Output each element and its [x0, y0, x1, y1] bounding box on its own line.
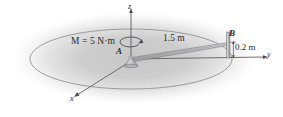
moment-label: M = 5 N·m	[71, 37, 115, 47]
point-b-label: B	[229, 29, 235, 38]
point-a-label: A	[116, 47, 122, 56]
arm-length-label: 1.5 m	[163, 34, 185, 44]
axis-x-label: x	[70, 95, 74, 103]
moment-text: M = 5 N·m	[71, 36, 115, 46]
offset-height-label: 0.2 m	[235, 43, 256, 52]
mechanics-figure	[0, 0, 283, 117]
axis-y-label: y	[267, 51, 271, 59]
axis-z-label: z	[128, 3, 131, 11]
